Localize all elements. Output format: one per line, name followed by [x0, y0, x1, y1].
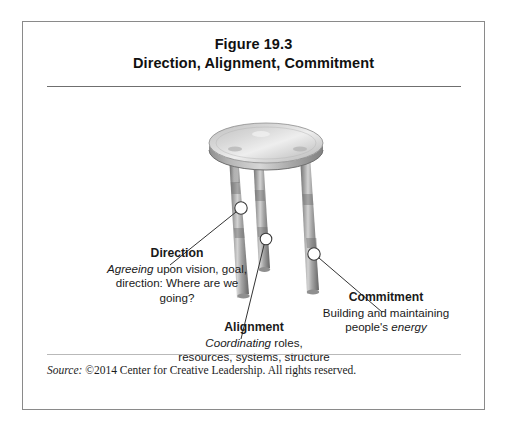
figure-number: Figure 19.3 [23, 35, 484, 54]
callout-direction: Direction Agreeing upon vision, goal, di… [97, 246, 257, 305]
callout-direction-body: Agreeing upon vision, goal, direction: W… [97, 262, 257, 306]
callout-direction-title: Direction [97, 246, 257, 261]
source-note: Source: ©2014 Center for Creative Leader… [47, 364, 356, 376]
callout-commitment-body-tail: energy [391, 320, 426, 333]
callout-commitment-body: Building and maintaining people's energy [301, 306, 471, 335]
title-divider [47, 86, 461, 87]
source-label: Source: [47, 364, 82, 376]
source-text: ©2014 Center for Creative Leadership. Al… [82, 364, 356, 376]
callout-commitment-body-lead: Building and maintaining people's [323, 306, 449, 334]
callout-direction-body-lead: Agreeing [107, 262, 153, 275]
stool-leg-right [300, 155, 319, 295]
callout-alignment-body: Coordinating roles, resources, systems, … [178, 336, 330, 365]
commitment-marker-icon [308, 248, 320, 260]
direction-marker-icon [235, 202, 247, 214]
figure-frame: Figure 19.3 Direction, Alignment, Commit… [22, 21, 485, 410]
callout-commitment: Commitment Building and maintaining peop… [301, 290, 471, 335]
callout-alignment-body-lead: Coordinating [205, 336, 271, 349]
figure-title-block: Figure 19.3 Direction, Alignment, Commit… [23, 35, 484, 73]
figure-title: Direction, Alignment, Commitment [23, 54, 484, 73]
callout-commitment-title: Commitment [301, 290, 471, 305]
source-divider [47, 354, 461, 355]
stool-seat [209, 123, 323, 170]
alignment-marker-icon [260, 233, 272, 245]
